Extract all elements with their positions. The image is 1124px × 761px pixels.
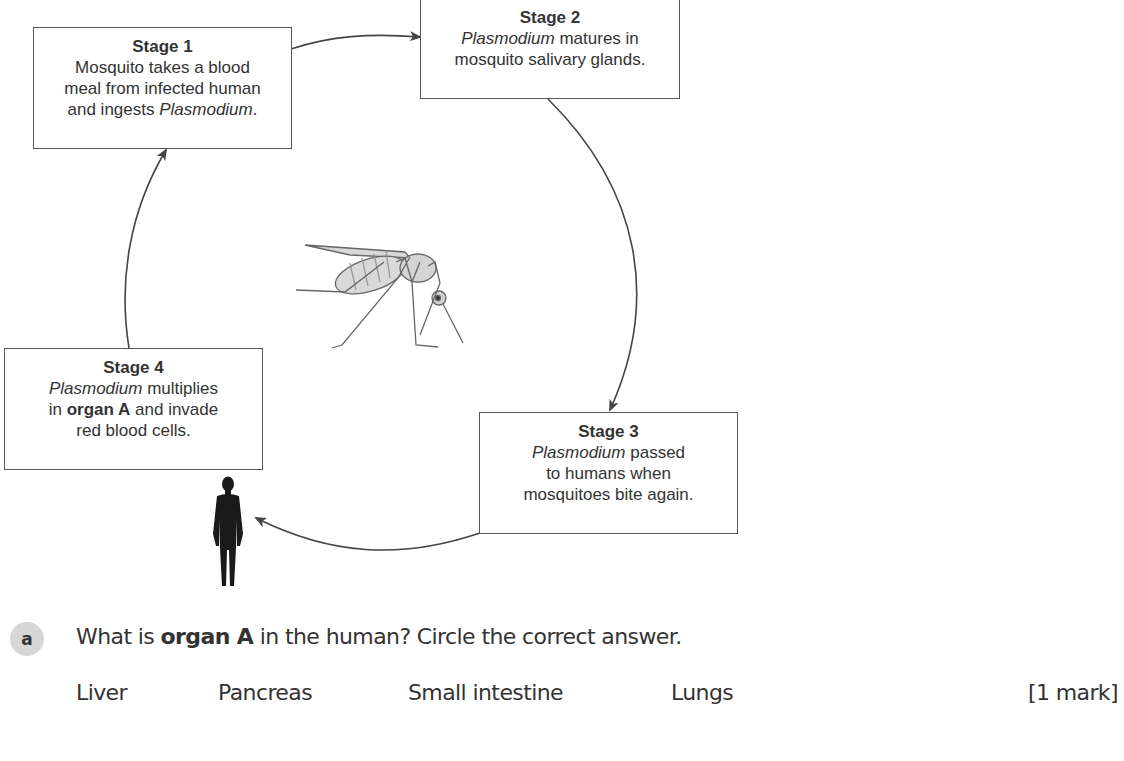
organism-name: Plasmodium [49, 379, 143, 398]
stage-1-box: Stage 1 Mosquito takes a blood meal from… [33, 27, 292, 149]
answer-option-small-intestine[interactable]: Small intestine [408, 678, 563, 708]
arrow-stage3-to-human [256, 518, 480, 550]
text-run: and ingests [68, 100, 160, 119]
stage-3-line: mosquitoes bite again. [480, 484, 737, 505]
stage-1-line: and ingests Plasmodium. [34, 99, 291, 120]
mosquito-icon [296, 245, 463, 348]
arrow-stage2-to-stage3 [548, 99, 637, 410]
question-a: a What is organ A in the human? Circle t… [0, 608, 1124, 758]
stage-2-line: Plasmodium matures in [421, 28, 679, 49]
organism-name: Plasmodium [461, 29, 555, 48]
stage-3-title: Stage 3 [480, 421, 737, 442]
text-run: What is [76, 624, 161, 649]
stage-4-title: Stage 4 [5, 357, 262, 378]
question-label-badge: a [10, 622, 44, 656]
text-run: in the human? Circle the correct answer. [253, 624, 681, 649]
stage-2-box: Stage 2 Plasmodium matures in mosquito s… [420, 0, 680, 99]
text-run: meal from infected human [64, 79, 261, 98]
answer-option-liver[interactable]: Liver [76, 678, 127, 708]
stage-4-line: red blood cells. [5, 420, 262, 441]
text-run: to humans when [546, 464, 671, 483]
text-run: . [253, 100, 258, 119]
organ-label: organ A [161, 624, 254, 649]
text-run: red blood cells. [76, 421, 190, 440]
stage-4-line: in organ A and invade [5, 399, 262, 420]
stage-2-line: mosquito salivary glands. [421, 49, 679, 70]
marks-label: [1 mark] [1028, 678, 1118, 708]
stage-4-box: Stage 4 Plasmodium multiplies in organ A… [4, 348, 263, 470]
text-run: Mosquito takes a blood [75, 58, 250, 77]
text-run: passed [626, 443, 686, 462]
text-run: and invade [130, 400, 218, 419]
organism-name: Plasmodium [159, 100, 253, 119]
text-run: multiplies [142, 379, 218, 398]
stage-1-title: Stage 1 [34, 36, 291, 57]
arrow-stage1-to-stage2 [291, 35, 420, 49]
text-run: mosquitoes bite again. [523, 485, 693, 504]
stage-3-line: to humans when [480, 463, 737, 484]
stage-1-line: meal from infected human [34, 78, 291, 99]
human-silhouette-icon [213, 477, 243, 587]
text-run: in [49, 400, 67, 419]
answer-option-pancreas[interactable]: Pancreas [218, 678, 312, 708]
stage-3-box: Stage 3 Plasmodium passed to humans when… [479, 412, 738, 534]
arrow-stage4-to-stage1 [125, 150, 166, 348]
answer-option-lungs[interactable]: Lungs [671, 678, 733, 708]
text-run: matures in [555, 29, 639, 48]
organ-label: organ A [67, 400, 131, 419]
stage-3-line: Plasmodium passed [480, 442, 737, 463]
text-run: mosquito salivary glands. [455, 50, 646, 69]
stage-1-line: Mosquito takes a blood [34, 57, 291, 78]
stage-2-title: Stage 2 [421, 7, 679, 28]
question-text: What is organ A in the human? Circle the… [76, 622, 682, 652]
organism-name: Plasmodium [532, 443, 626, 462]
stage-4-line: Plasmodium multiplies [5, 378, 262, 399]
